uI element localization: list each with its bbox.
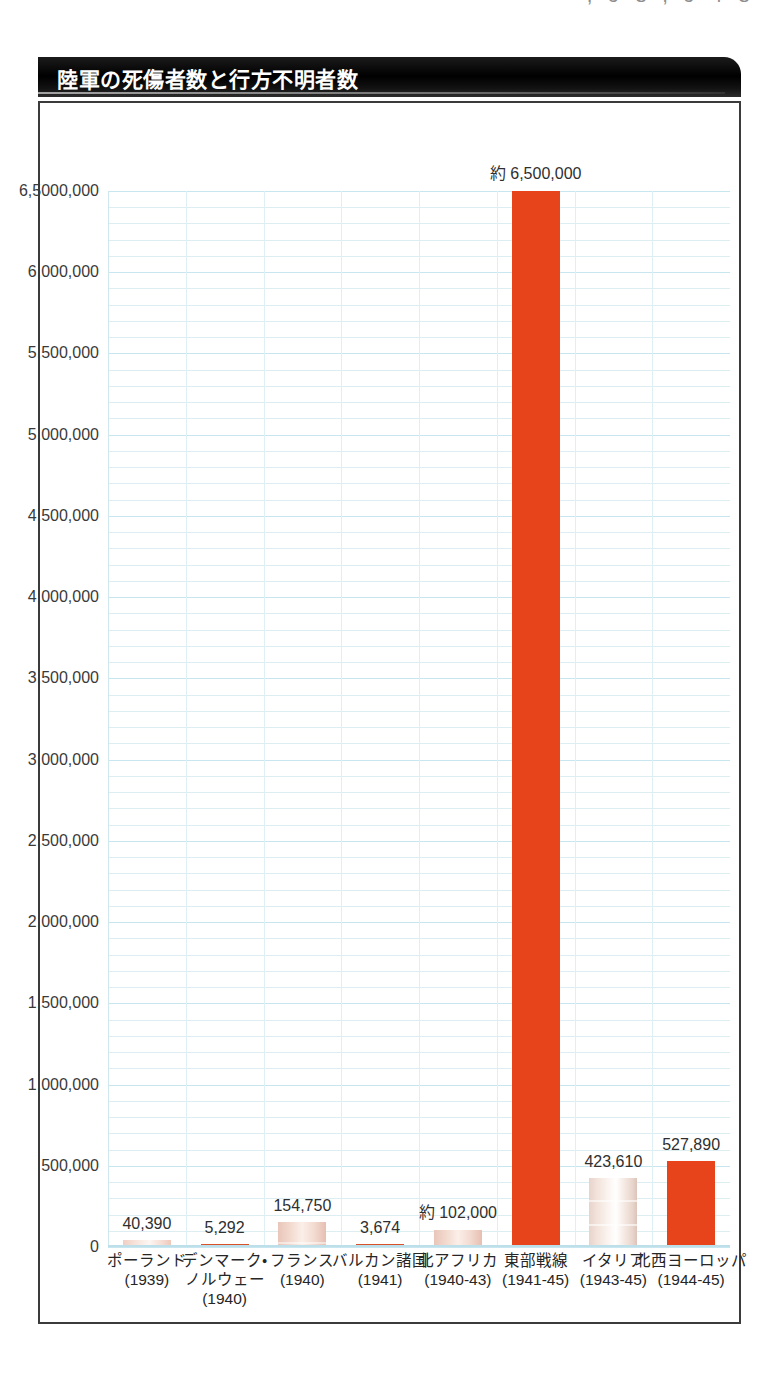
x-axis-label: 北西ヨーロッパ(1944-45) <box>635 1251 747 1289</box>
bar-slot: 154,750 <box>264 191 342 1247</box>
bar-slot: 3,674 <box>341 191 419 1247</box>
y-axis-tick-label: 5,000,000 <box>28 426 99 444</box>
gridline-major <box>108 1247 730 1248</box>
bar-slot: 40,390 <box>108 191 186 1247</box>
page-header-fragment: ‚ 9 8 ‚ 9 4 8 <box>0 0 777 26</box>
x-axis-label-line: (1940) <box>169 1289 281 1308</box>
y-axis-tick-label: 5,500,000 <box>28 344 99 362</box>
x-axis-category-labels: ポーランド(1939)デンマーク・ノルウェー(1940)フランス(1940)バル… <box>108 1251 730 1323</box>
bar-value-label: 3,674 <box>360 1219 400 1237</box>
bar-value-label: 約 6,500,000 <box>490 160 582 184</box>
x-axis-baseline <box>108 1245 730 1247</box>
bar-value-label: 40,390 <box>122 1215 171 1233</box>
page-header-fragment-text: ‚ 9 8 ‚ 9 4 8 <box>587 0 755 7</box>
x-axis-label-line: (1944-45) <box>635 1270 747 1289</box>
y-axis-tick-label: 6,000,000 <box>28 263 99 281</box>
bar-slot: 5,292 <box>186 191 264 1247</box>
y-axis-tick-label: 3,000,000 <box>28 751 99 769</box>
y-axis-tick-label: 1,500,000 <box>28 994 99 1012</box>
bar-slot: 527,890 <box>652 191 730 1247</box>
bar-slot: 約 102,000 <box>419 191 497 1247</box>
y-axis-tick-label: 500,000 <box>41 1157 99 1175</box>
y-axis-tick-label: 2,000,000 <box>28 913 99 931</box>
y-axis-tick-label: 4,500,000 <box>28 507 99 525</box>
bar-value-label: 154,750 <box>273 1197 331 1215</box>
chart-title: 陸軍の死傷者数と行方不明者数 <box>57 63 358 93</box>
bar-value-label: 527,890 <box>662 1136 720 1154</box>
bar-slot: 約 6,500,000 <box>497 191 575 1247</box>
bar-slot: 423,610 <box>575 191 653 1247</box>
bar[interactable] <box>589 1178 637 1247</box>
x-axis-label-line: 北西ヨーロッパ <box>635 1251 747 1270</box>
bar[interactable] <box>667 1161 715 1247</box>
y-axis-tick-label: 6,5000,000 <box>19 182 99 200</box>
chart-title-banner: 陸軍の死傷者数と行方不明者数 <box>38 57 741 97</box>
bar-value-label: 約 102,000 <box>419 1199 497 1223</box>
y-axis-tick-label: 2,500,000 <box>28 832 99 850</box>
y-axis-tick-label: 3,500,000 <box>28 669 99 687</box>
bar-value-label: 423,610 <box>584 1153 642 1171</box>
plot-area: 6,5000,0006,000,0005,500,0005,000,0004,5… <box>108 191 730 1247</box>
bar[interactable] <box>512 191 560 1247</box>
bar-value-label: 5,292 <box>205 1219 245 1237</box>
bar[interactable] <box>278 1222 326 1247</box>
chart-figure: 陸軍の死傷者数と行方不明者数 6,5000,0006,000,0005,500,… <box>38 57 741 1324</box>
chart-body: 6,5000,0006,000,0005,500,0005,000,0004,5… <box>38 101 741 1324</box>
y-axis-tick-label: 1,000,000 <box>28 1076 99 1094</box>
y-axis-tick-label: 4,000,000 <box>28 588 99 606</box>
